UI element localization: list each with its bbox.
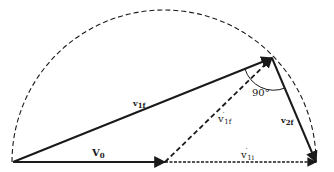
label-v1i-prime: v′1i [241,148,254,162]
label-v0-sub: 0 [100,151,105,160]
label-v1f-sub: 1f [138,101,146,110]
vector-v2f [272,58,316,162]
semicircle-dashed [12,10,316,162]
label-v0-base: V [92,147,100,158]
collision-vector-diagram [0,0,334,172]
label-v1f-prime-sub: 1f [224,118,231,126]
vector-v1f-prime [165,58,272,162]
label-v2f-sub: 2f [286,118,294,127]
label-v2f: v2f [281,116,294,126]
label-angle-90: 90° [252,88,270,98]
label-v1f: v1f [133,99,146,109]
label-v0: V0 [92,148,105,159]
vector-v1f [13,58,272,162]
label-v1i-prime-sub: 1i [247,154,254,162]
label-v1f-prime: v′1f [218,112,231,126]
